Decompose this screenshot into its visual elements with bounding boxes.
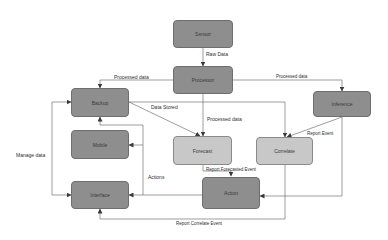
node-interface[interactable]: Interface xyxy=(71,181,129,209)
node-action-label: Action xyxy=(224,190,238,196)
node-interface-label: Interface xyxy=(90,192,109,198)
node-correlate[interactable]: Correlate xyxy=(256,137,313,165)
node-forecast-label: Forecast xyxy=(193,148,212,154)
edge-processed-data-inference xyxy=(233,80,342,91)
node-backup[interactable]: Backup xyxy=(71,88,129,117)
label-report-forecasted-event: Report Forecasted Event xyxy=(206,167,256,173)
label-processed-data-left: Processed data xyxy=(114,74,149,80)
label-report-correlate-event: Report Correlate Event xyxy=(176,221,222,227)
label-actions: Actions xyxy=(148,174,164,180)
node-sensor-label: Sensor xyxy=(195,31,211,37)
edge-manage-data-backup xyxy=(52,102,71,195)
node-processor-label: Processor xyxy=(192,77,215,83)
label-raw-data: Raw Data xyxy=(206,51,228,57)
node-inference-label: Inference xyxy=(332,101,353,107)
node-mobile-label: Mobile xyxy=(93,142,108,148)
label-processed-data-right: Processed data xyxy=(276,74,307,80)
label-data-stored: Data Stored xyxy=(151,104,178,110)
edge-processed-data-backup xyxy=(100,80,173,88)
label-report-event: Report Event xyxy=(307,131,333,137)
node-mobile[interactable]: Mobile xyxy=(71,130,129,159)
node-inference[interactable]: Inference xyxy=(313,91,371,117)
node-processor[interactable]: Processor xyxy=(173,66,233,94)
node-action[interactable]: Action xyxy=(202,177,260,209)
node-sensor[interactable]: Sensor xyxy=(173,20,233,48)
edge-actions-mobile xyxy=(129,145,143,195)
node-forecast[interactable]: Forecast xyxy=(173,136,232,165)
node-backup-label: Backup xyxy=(92,100,109,106)
node-correlate-label: Correlate xyxy=(274,148,295,154)
label-manage-data: Manage data xyxy=(16,152,45,158)
label-processed-data-center: Processed data xyxy=(207,116,242,122)
